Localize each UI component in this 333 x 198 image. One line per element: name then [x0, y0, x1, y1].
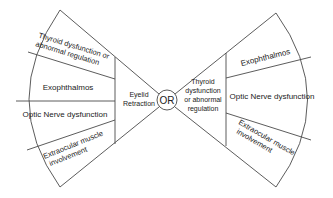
- or-label: OR: [160, 95, 175, 106]
- right-hub-label-3: or abnormal: [184, 96, 222, 103]
- svg-text:Exophthalmos: Exophthalmos: [240, 47, 291, 68]
- bowtie-diagram: OR Eyelid Retraction Thyroid dysfunction…: [0, 0, 333, 198]
- left-segment-thyroid: Thyroid dysfunction or abnormal regulati…: [34, 31, 111, 70]
- right-hub-label-1: Thyroid: [191, 78, 214, 86]
- right-segment-exophthalmos: Exophthalmos: [240, 47, 291, 68]
- left-hub-label-1: Eyelid: [129, 91, 148, 99]
- left-segment-optic-nerve: Optic Nerve dysfunction: [23, 110, 108, 119]
- left-segment-extraocular: Extraocular muscle involvement: [42, 129, 108, 170]
- left-hub-label-2: Retraction: [123, 100, 155, 107]
- right-segment-optic-nerve: Optic Nerve dysfunction: [230, 92, 315, 101]
- right-hub-label-4: regulation: [188, 105, 219, 113]
- left-segment-exophthalmos: Exophthalmos: [43, 83, 94, 92]
- right-hub-label-2: dysfunction: [185, 87, 221, 95]
